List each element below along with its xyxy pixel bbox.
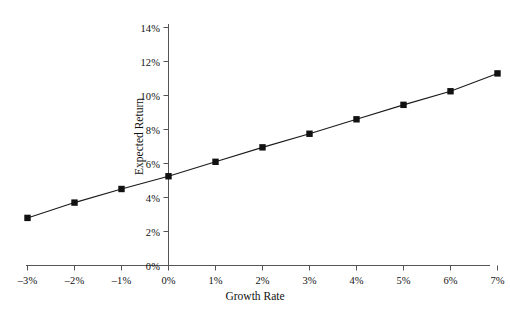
x-axis-tick-label: 0% — [161, 275, 175, 286]
series-markers — [24, 70, 500, 221]
data-point-marker — [400, 102, 406, 108]
x-axis-tick-label: –1% — [112, 275, 132, 286]
x-axis-title: Growth Rate — [0, 290, 510, 302]
data-point-marker — [71, 199, 77, 205]
x-axis-tick-label: 7% — [490, 275, 504, 286]
data-point-marker — [24, 215, 30, 221]
y-axis-tick-label: 4% — [120, 192, 160, 203]
chart-figure: 0%2%4%6%8%10%12%14% –3%–2%–1%0%1%2%3%4%5… — [0, 0, 510, 313]
x-axis-tick-label: 6% — [443, 275, 457, 286]
x-axis-tick-label: 5% — [396, 275, 410, 286]
x-axis-tick-label: 3% — [302, 275, 316, 286]
y-axis-tick-label: 14% — [120, 22, 160, 33]
data-point-marker — [353, 116, 359, 122]
data-point-marker — [447, 88, 453, 94]
y-axis-tick-label: 0% — [120, 260, 160, 271]
plot-area — [0, 0, 510, 313]
x-axis-tick-label: –2% — [65, 275, 85, 286]
data-point-marker — [212, 159, 218, 165]
y-axis-title: Expected Return — [133, 98, 145, 175]
x-axis-tick-label: 4% — [349, 275, 363, 286]
data-point-marker — [494, 70, 500, 76]
x-axis-ticks — [28, 266, 498, 271]
data-point-marker — [165, 173, 171, 179]
y-axis-ticks — [164, 28, 169, 266]
data-point-marker — [259, 144, 265, 150]
x-axis-tick-label: 2% — [255, 275, 269, 286]
y-axis-tick-label: 12% — [120, 56, 160, 67]
data-point-marker — [306, 131, 312, 137]
y-axis-tick-label: 2% — [120, 226, 160, 237]
x-axis-tick-label: 1% — [208, 275, 222, 286]
x-axis-tick-label: –3% — [18, 275, 38, 286]
